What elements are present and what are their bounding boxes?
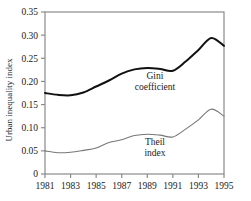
urban-inequality-line-chart: 00.050.100.150.200.250.300.35 1981198319… bbox=[0, 0, 251, 201]
x-tick-label: 1983 bbox=[61, 181, 80, 191]
x-tick-label: 1995 bbox=[215, 181, 234, 191]
y-tick-label: 0.20 bbox=[21, 77, 38, 87]
annotation-gini-line: coefficient bbox=[135, 82, 176, 92]
y-tick-label: 0.25 bbox=[21, 54, 38, 64]
y-tick-label: 0.30 bbox=[21, 31, 38, 41]
x-tick-label: 1989 bbox=[138, 181, 157, 191]
y-tick-label: 0 bbox=[33, 169, 38, 179]
annotation-theil-line: Theil bbox=[145, 137, 165, 147]
y-tick-label: 0.35 bbox=[21, 7, 38, 17]
annotation-theil-line: index bbox=[144, 148, 165, 158]
y-tick-label: 0.15 bbox=[21, 100, 38, 110]
x-tick-label: 1981 bbox=[36, 181, 55, 191]
y-tick-label: 0.10 bbox=[21, 123, 38, 133]
x-tick-label: 1985 bbox=[87, 181, 106, 191]
annotation-gini-line: Gini bbox=[147, 71, 164, 81]
x-tick-label: 1987 bbox=[112, 181, 131, 191]
chart-container: 00.050.100.150.200.250.300.35 1981198319… bbox=[0, 0, 251, 201]
x-tick-label: 1991 bbox=[163, 181, 182, 191]
annotation-theil: Theilindex bbox=[144, 137, 165, 158]
y-axis-label: Urban inequality index bbox=[4, 58, 14, 141]
x-tick-label: 1993 bbox=[189, 181, 208, 191]
y-tick-label: 0.05 bbox=[21, 146, 38, 156]
